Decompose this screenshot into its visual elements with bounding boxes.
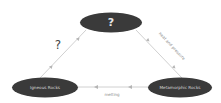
- edge-label-melting: melting: [104, 92, 120, 97]
- arrowhead-icon: [94, 85, 98, 89]
- node-label-unknown: ?: [108, 16, 114, 29]
- rock-cycle-diagram: ? heat and pressure melting ? Igneous Ro…: [0, 0, 221, 103]
- node-unknown-top: ?: [80, 13, 142, 33]
- node-metamorphic-rocks: Metamorphic Rocks: [148, 78, 212, 98]
- edge-igneous-to-top: [40, 30, 86, 78]
- node-igneous-rocks: Igneous Rocks: [12, 78, 78, 98]
- arrowhead-icon: [128, 85, 132, 89]
- edge-top-to-metamorphic: [136, 30, 182, 78]
- edge-metamorphic-to-igneous: [78, 85, 148, 89]
- edge-label-unknown: ?: [55, 38, 61, 52]
- node-label-igneous: Igneous Rocks: [30, 85, 60, 90]
- node-label-metamorphic: Metamorphic Rocks: [159, 85, 200, 90]
